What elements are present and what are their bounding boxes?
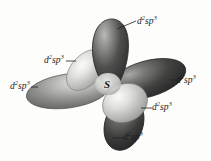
- orbital-label-bottom-sp-sup: 3: [140, 130, 143, 137]
- orbital-label-upper-left-sp: sp: [52, 55, 61, 65]
- central-atom-label: S: [104, 78, 110, 90]
- orbital-label-left-sp-sup: 3: [27, 79, 30, 86]
- orbital-label-upper-left: d2sp3: [44, 56, 64, 66]
- orbital-label-lower-right: d2sp3: [152, 103, 172, 113]
- orbital-label-left: d2sp3: [10, 82, 30, 92]
- orbital-label-top-sp-sup: 3: [154, 14, 157, 21]
- orbital-label-upper-left-sp-sup: 3: [61, 53, 64, 60]
- orbital-label-lower-right-sp-sup: 3: [169, 100, 172, 107]
- orbital-label-top: d2sp3: [137, 17, 157, 27]
- orbital-label-bottom-sp: sp: [131, 132, 140, 142]
- orbital-label-right-sp: sp: [184, 75, 193, 85]
- orbital-label-left-sp: sp: [18, 81, 27, 91]
- orbital-diagram-figure: S d2sp3 d2sp3 d2sp3 d2sp3 d2sp3 d2sp3: [0, 0, 211, 161]
- orbital-label-bottom: d2sp3: [123, 133, 143, 143]
- orbital-label-lower-right-sp: sp: [160, 102, 169, 112]
- orbital-label-right-sp-sup: 3: [193, 73, 196, 80]
- orbital-label-right: d2sp3: [176, 76, 196, 86]
- orbital-label-top-sp: sp: [145, 16, 154, 26]
